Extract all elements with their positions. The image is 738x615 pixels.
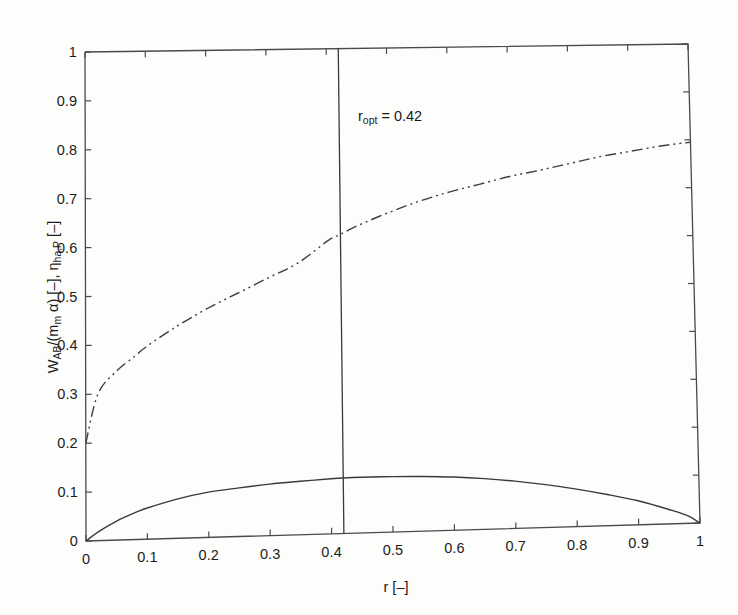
x-tick-label: 0.4 bbox=[321, 544, 341, 560]
x-tick-label: 0.1 bbox=[137, 549, 157, 565]
y-axis-w: W bbox=[45, 359, 61, 373]
y-axis-sub-m: m bbox=[52, 316, 63, 325]
y-axis-sub-hap: ha,P bbox=[52, 241, 63, 262]
r-opt-annotation: ropt = 0.42 bbox=[358, 108, 422, 126]
plot-canvas bbox=[0, 0, 738, 615]
x-tick-label: 0.2 bbox=[199, 547, 219, 563]
y-tick-label: 1 bbox=[27, 44, 77, 60]
x-tick-label: 0 bbox=[82, 551, 90, 567]
x-axis-title: r [–] bbox=[384, 579, 409, 595]
y-tick-label: 0 bbox=[28, 533, 78, 549]
figure-container: 00.10.20.30.40.50.60.70.80.91 00.10.20.3… bbox=[0, 0, 738, 615]
r-opt-value: = 0.42 bbox=[377, 108, 422, 124]
y-tick-label: 0.1 bbox=[28, 484, 78, 500]
x-axis-title-text: r [–] bbox=[384, 579, 409, 595]
x-tick-label: 0.9 bbox=[628, 535, 648, 551]
y-tick-label: 0.8 bbox=[27, 142, 77, 158]
series-eta-ha-p-curve bbox=[86, 142, 691, 443]
x-tick-label: 0.6 bbox=[444, 540, 464, 556]
y-tick-label: 0.9 bbox=[27, 93, 77, 109]
x-tick-label: 0.3 bbox=[260, 546, 280, 562]
x-tick-label: 0.7 bbox=[506, 538, 526, 554]
y-axis-alpha: α) [–], η bbox=[45, 262, 61, 316]
y-axis-unit: [–] bbox=[45, 221, 61, 241]
x-tick-label: 0.8 bbox=[567, 537, 587, 553]
y-axis-sub-ab: AB bbox=[52, 346, 63, 360]
x-tick-label: 0.5 bbox=[383, 542, 403, 558]
r-opt-vertical-line bbox=[338, 49, 344, 534]
y-axis-title: WAB/(mm α) [–], ηha,P [–] bbox=[45, 157, 63, 437]
y-tick-label: 0.2 bbox=[28, 435, 78, 451]
r-opt-subscript: opt bbox=[363, 115, 378, 126]
y-axis-div: /(m bbox=[45, 325, 61, 346]
x-tick-label: 1 bbox=[696, 533, 704, 549]
